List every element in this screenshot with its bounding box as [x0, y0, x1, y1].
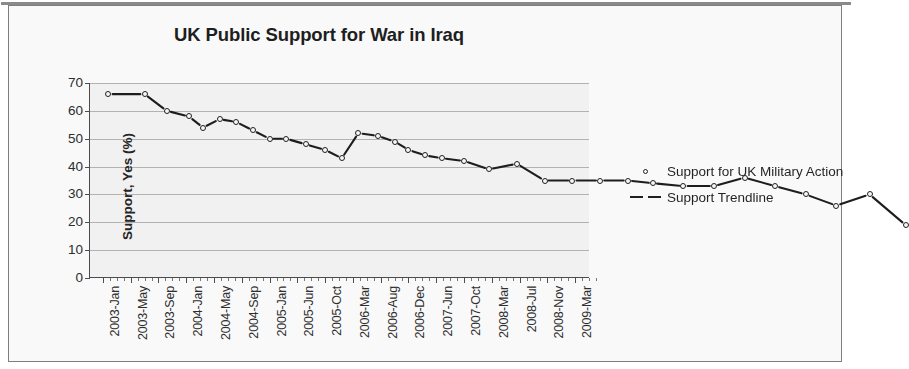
trendline-segment: [207, 121, 216, 126]
data-point-marker: [303, 141, 309, 147]
x-minor-tick-mark: [339, 278, 340, 281]
y-tick-label: 60: [43, 104, 83, 118]
x-minor-tick-mark: [540, 278, 541, 281]
data-point-marker: [903, 222, 909, 228]
x-minor-tick-mark: [138, 278, 139, 281]
x-minor-tick-mark: [415, 278, 416, 281]
data-point-marker: [142, 91, 148, 97]
x-tick-mark: [270, 278, 271, 283]
x-minor-tick-mark: [499, 278, 500, 281]
x-tick-label: 2003-Sep: [163, 286, 177, 339]
data-point-marker: [514, 161, 520, 167]
x-tick-mark: [547, 278, 548, 283]
x-minor-tick-mark: [193, 278, 194, 281]
x-minor-tick-mark: [332, 278, 333, 281]
x-tick-mark: [242, 278, 243, 283]
trendline-segment: [310, 145, 321, 148]
open-circle-icon: [623, 169, 667, 174]
x-minor-tick-mark: [422, 278, 423, 281]
x-tick-label: 2009-Mar: [580, 286, 594, 338]
x-minor-tick-mark: [165, 278, 166, 281]
plot-region: 706050403020100 2003-Jan2003-May2003-Sep…: [89, 83, 589, 278]
legend-label-support-points: Support for UK Military Action: [667, 164, 843, 179]
chart-page-frame: UK Public Support for War in Iraq 706050…: [8, 4, 842, 362]
trendline-segment: [224, 120, 232, 121]
x-tick-label: 2004-Sep: [247, 286, 261, 339]
x-minor-tick-mark: [471, 278, 472, 281]
x-tick-mark: [492, 278, 493, 283]
data-point-marker: [200, 125, 206, 131]
data-point-marker: [217, 116, 223, 122]
data-point-marker: [322, 147, 328, 153]
x-minor-tick-mark: [395, 278, 396, 281]
data-point-marker: [392, 139, 398, 145]
x-minor-tick-mark: [478, 278, 479, 281]
x-minor-tick-mark: [256, 278, 257, 281]
data-point-marker: [283, 136, 289, 142]
legend-label-trendline: Support Trendline: [667, 190, 774, 205]
x-minor-tick-mark: [110, 278, 111, 281]
chart-legend: Support for UK Military Action Support T…: [623, 158, 859, 210]
trendline-segment: [344, 137, 356, 155]
data-point-marker: [339, 155, 345, 161]
data-point-marker: [164, 108, 170, 114]
data-point-marker: [439, 155, 445, 161]
x-tick-label: 2007-Jun: [441, 286, 455, 337]
y-axis-title: Support, Yes (%): [120, 97, 135, 277]
trendline-segment: [446, 159, 460, 161]
x-tick-mark: [408, 278, 409, 283]
x-tick-label: 2007-Oct: [469, 286, 483, 336]
x-minor-tick-mark: [228, 278, 229, 281]
x-minor-tick-mark: [360, 278, 361, 281]
x-tick-label: 2005-Oct: [330, 286, 344, 336]
x-minor-tick-mark: [235, 278, 236, 281]
x-tick-mark: [520, 278, 521, 283]
trendline-segment: [257, 132, 266, 137]
x-tick-mark: [297, 278, 298, 283]
data-point-marker: [461, 158, 467, 164]
x-minor-tick-mark: [304, 278, 305, 281]
x-minor-tick-mark: [374, 278, 375, 281]
dashed-line-icon: [623, 196, 667, 198]
x-minor-tick-mark: [429, 278, 430, 281]
trendline-segment: [171, 112, 185, 116]
x-tick-mark: [186, 278, 187, 283]
y-tick-label: 70: [43, 76, 83, 90]
trendline-segment: [382, 137, 391, 140]
data-point-marker: [542, 178, 548, 184]
x-minor-tick-mark: [402, 278, 403, 281]
trendline-segment: [429, 156, 437, 157]
x-minor-tick-mark: [283, 278, 284, 281]
trendline-segment: [520, 166, 541, 178]
x-tick-label: 2008-Mar: [497, 286, 511, 338]
x-minor-tick-mark: [179, 278, 180, 281]
x-minor-tick-mark: [346, 278, 347, 281]
x-minor-tick-mark: [263, 278, 264, 281]
trendline-segment: [493, 165, 513, 169]
y-tick-label: 40: [43, 160, 83, 174]
y-tick-label: 20: [43, 215, 83, 229]
x-minor-tick-mark: [561, 278, 562, 281]
x-minor-tick-mark: [311, 278, 312, 281]
trendline-segment: [468, 162, 485, 168]
trendline-segment: [363, 134, 374, 136]
trendline-segment: [398, 144, 405, 148]
x-minor-tick-mark: [554, 278, 555, 281]
x-tick-mark: [131, 278, 132, 283]
x-tick-mark: [214, 278, 215, 283]
x-minor-tick-mark: [596, 278, 597, 281]
y-tick-label: 10: [43, 243, 83, 257]
x-tick-label: 2003-May: [136, 286, 150, 340]
x-minor-tick-mark: [388, 278, 389, 281]
x-minor-tick-mark: [485, 278, 486, 281]
x-minor-tick-mark: [589, 278, 590, 281]
legend-item-trendline: Support Trendline: [623, 184, 859, 210]
x-tick-mark: [353, 278, 354, 283]
x-minor-tick-mark: [207, 278, 208, 281]
x-tick-label: 2005-Jan: [275, 286, 289, 337]
x-minor-tick-mark: [367, 278, 368, 281]
x-minor-tick-mark: [318, 278, 319, 281]
trendline-segment: [329, 152, 338, 157]
x-minor-tick-mark: [117, 278, 118, 281]
x-tick-label: 2006-Aug: [386, 286, 400, 339]
